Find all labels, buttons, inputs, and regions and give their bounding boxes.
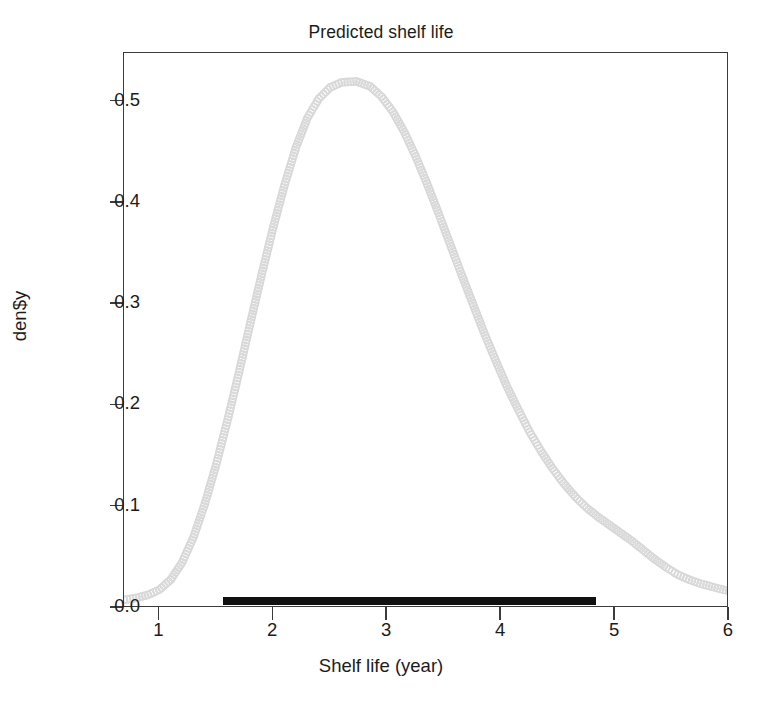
density-curve-markers	[124, 78, 728, 604]
y-axis-title: den$y	[9, 236, 31, 396]
credible-interval-bar	[223, 597, 596, 605]
y-tick-label: 0.2	[78, 392, 140, 414]
x-tick-label: 2	[242, 619, 302, 641]
y-tick-label: 0.1	[78, 494, 140, 516]
y-tick-label: 0.3	[78, 291, 140, 313]
y-axis-tick-labels: 0.00.10.20.30.40.5	[38, 0, 104, 713]
y-tick-label: 0.5	[78, 89, 140, 111]
y-tick-label: 0.4	[78, 190, 140, 212]
x-tick-label: 5	[584, 619, 644, 641]
x-tick-label: 3	[356, 619, 416, 641]
density-plot-figure: Predicted shelf life 123456 0.00.10.20.3…	[0, 0, 762, 713]
x-axis-title: Shelf life (year)	[0, 655, 762, 677]
x-tick-label: 4	[470, 619, 530, 641]
plot-area	[123, 52, 728, 607]
x-tick-label: 1	[128, 619, 188, 641]
x-tick-label: 6	[698, 619, 758, 641]
density-curve	[124, 53, 728, 607]
chart-title: Predicted shelf life	[0, 22, 762, 43]
y-tick-label: 0.0	[78, 595, 140, 617]
